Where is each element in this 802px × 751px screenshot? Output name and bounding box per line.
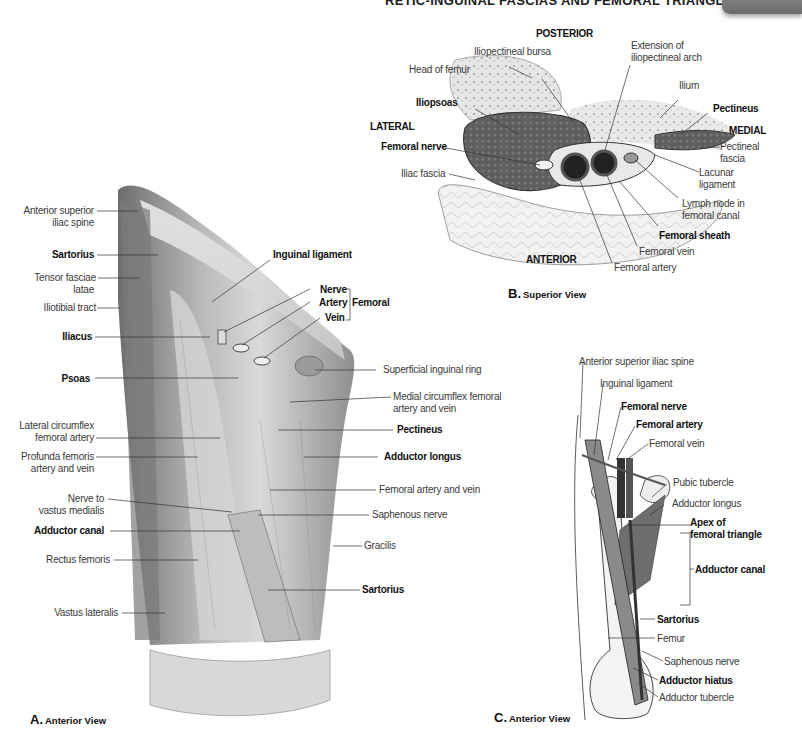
orientation-medial: MEDIAL <box>729 125 766 137</box>
figure-c-letter: C. <box>494 710 507 725</box>
label-apex-line2: femoral triangle <box>690 529 762 541</box>
label-sartorius-a-left: Sartorius <box>52 249 94 261</box>
label-asis-line2: iliac spine <box>52 217 94 229</box>
orientation-anterior: ANTERIOR <box>526 254 577 266</box>
label-saphenous-nerve-c: Saphenous nerve <box>664 656 739 668</box>
label-apex-line1: Apex of <box>690 517 725 529</box>
label-adductor-longus-c: Adductor longus <box>672 498 741 510</box>
label-adductor-hiatus: Adductor hiatus <box>659 675 733 687</box>
label-lacunar-ligament-line2: ligament <box>699 179 735 191</box>
label-vein: Vein <box>325 312 345 324</box>
figure-b-caption-text: Superior View <box>523 289 586 300</box>
label-tfl-line2: latae <box>73 284 94 296</box>
label-iliacus: Iliacus <box>62 331 92 343</box>
label-vastus-lateralis: Vastus lateralis <box>54 607 118 619</box>
label-lymph-node-line2: femoral canal <box>682 210 739 222</box>
label-artery: Artery <box>319 297 347 309</box>
label-psoas: Psoas <box>62 373 90 385</box>
label-adductor-canal-a: Adductor canal <box>34 525 104 537</box>
label-sartorius-c: Sartorius <box>657 614 699 626</box>
orientation-lateral: LATERAL <box>370 121 415 133</box>
figure-c-caption-text: Anterior View <box>509 713 570 724</box>
label-femoral-nerve-b: Femoral nerve <box>381 141 447 153</box>
label-profunda-line1: Profunda femoris <box>21 451 94 463</box>
label-lcfa-line2: femoral artery <box>35 432 94 444</box>
figure-a-thigh-illustration <box>118 186 354 716</box>
label-mcfa-line1: Medial circumflex femoral <box>393 391 501 403</box>
label-extension-arch-line2: iliopectineal arch <box>631 52 702 64</box>
label-gracilis: Gracilis <box>364 540 396 552</box>
figure-a-caption-text: Anterior View <box>45 715 106 726</box>
label-femoral-artery-vein: Femoral artery and vein <box>379 484 480 496</box>
figure-a-caption: A.Anterior View <box>30 712 106 727</box>
label-pectineal-fascia-line2: fascia <box>720 153 745 165</box>
label-femoral-group: Femoral <box>352 297 390 309</box>
label-lcfa-line1: Lateral circumflex <box>19 420 94 432</box>
label-sartorius-a-right: Sartorius <box>362 584 404 596</box>
label-adductor-longus-a: Adductor longus <box>384 451 461 463</box>
label-adductor-canal-c: Adductor canal <box>695 564 765 576</box>
label-pubic-tubercle: Pubic tubercle <box>673 477 734 489</box>
label-iliotibial-tract: Iliotibial tract <box>44 302 96 314</box>
label-tfl-line1: Tensor fasciae <box>34 272 96 284</box>
label-lymph-node-line1: Lymph node in <box>682 198 745 210</box>
label-mcfa-line2: artery and vein <box>393 403 456 415</box>
label-inguinal-ligament-c: Inguinal ligament <box>600 378 672 390</box>
figure-c-caption: C.Anterior View <box>494 710 570 725</box>
label-femur: Femur <box>657 633 685 645</box>
figure-c-femur-illustration <box>575 415 670 720</box>
figure-b-caption: B.Superior View <box>508 286 586 301</box>
figure-a-letter: A. <box>30 712 43 727</box>
label-saphenous-nerve-a: Saphenous nerve <box>372 509 447 521</box>
label-extension-arch-line1: Extension of <box>631 40 684 52</box>
label-femoral-sheath: Femoral sheath <box>659 230 730 242</box>
label-inguinal-ligament-a: Inguinal ligament <box>273 249 352 261</box>
label-lacunar-ligament-line1: Lacunar <box>699 167 734 179</box>
label-superficial-inguinal-ring: Superficial inguinal ring <box>383 364 481 376</box>
label-nerve-vm-line2: vastus medialis <box>39 505 104 517</box>
label-rectus-femoris: Rectus femoris <box>46 554 110 566</box>
figure-b-letter: B. <box>508 286 521 301</box>
label-iliac-fascia: Iliac fascia <box>401 168 445 180</box>
label-femoral-artery-b: Femoral artery <box>614 262 676 274</box>
label-pectineus-a: Pectineus <box>397 424 442 436</box>
label-profunda-line2: artery and vein <box>31 463 94 475</box>
label-nerve: Nerve <box>320 284 347 296</box>
orientation-posterior: POSTERIOR <box>536 28 593 40</box>
label-pectineus-b: Pectineus <box>713 103 758 115</box>
label-asis-line1: Anterior superior <box>23 205 94 217</box>
label-adductor-tubercle: Adductor tubercle <box>659 692 734 704</box>
label-ilium: Ilium <box>679 80 699 92</box>
label-femoral-nerve-c: Femoral nerve <box>621 401 687 413</box>
label-asis-c: Anterior superior iliac spine <box>579 356 694 368</box>
label-iliopsoas: Iliopsoas <box>416 97 458 109</box>
label-head-of-femur: Head of femur <box>409 64 470 76</box>
label-pectineal-fascia-line1: Pectineal <box>720 141 759 153</box>
label-femoral-vein-b: Femoral vein <box>639 246 694 258</box>
label-femoral-artery-c: Femoral artery <box>636 419 703 431</box>
label-femoral-vein-c: Femoral vein <box>649 438 704 450</box>
label-nerve-vm-line1: Nerve to <box>68 493 104 505</box>
label-iliopectineal-bursa: Iliopectineal bursa <box>474 46 551 58</box>
